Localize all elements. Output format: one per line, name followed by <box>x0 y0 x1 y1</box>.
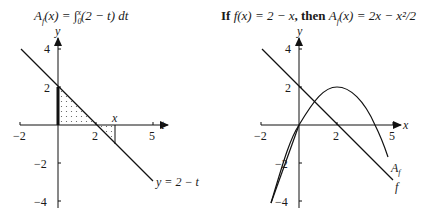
y-tick: −4 <box>34 195 47 209</box>
y-tick: 4 <box>285 42 291 56</box>
x-axis-label: x <box>402 118 409 132</box>
x-tick: 2 <box>333 129 339 143</box>
x-tick: 2 <box>92 129 98 143</box>
x-tick: 5 <box>149 129 155 143</box>
x-tick: −2 <box>13 129 26 143</box>
y-axis-label: y <box>296 24 303 38</box>
f-label: f <box>395 180 400 194</box>
line-label: y = 2 − t <box>155 175 200 189</box>
af-label: Af <box>390 161 402 177</box>
negative-area <box>96 125 115 144</box>
integral-graph: −2 2 5 4 2 −2 −4 y t x y = 2 − t <box>0 0 219 219</box>
y-tick: −2 <box>275 157 288 171</box>
left-panel: −2 2 5 4 2 −2 −4 y t x y = 2 − t Af(x) =… <box>0 0 219 219</box>
y-axis-label: y <box>54 24 61 38</box>
right-panel: −2 2 5 4 2 −2 −4 y x Af f If f(x) = 2 − … <box>219 0 438 219</box>
right-title: If f(x) = 2 − x, then Af(x) = 2x − x²/2 <box>221 8 416 26</box>
positive-area <box>58 87 96 125</box>
af-curve <box>271 87 388 203</box>
x-tick: −2 <box>254 129 267 143</box>
y-tick: −4 <box>275 195 288 209</box>
y-tick: 4 <box>44 42 50 56</box>
y-tick: −2 <box>34 157 47 171</box>
x-tick: 5 <box>389 129 395 143</box>
y-tick: 2 <box>44 81 50 95</box>
area-function-graph: −2 2 5 4 2 −2 −4 y x Af f <box>219 0 438 219</box>
left-title: Af(x) = ∫0x(2 − t) dt <box>34 8 128 26</box>
x-point-label: x <box>111 111 118 125</box>
y-tick: 2 <box>285 81 291 95</box>
